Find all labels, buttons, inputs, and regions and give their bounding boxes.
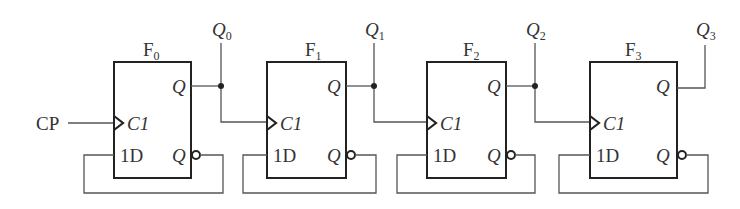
q2-wire [535, 43, 590, 122]
f1-q-label: Q [327, 76, 341, 97]
q0-junction-dot [218, 83, 224, 89]
q1-label: Q1 [365, 19, 385, 43]
flipflop-f1: F1 C1 1D Q Q [243, 39, 376, 193]
f3-qbar-label: Q [656, 145, 670, 166]
q1-wire [374, 43, 427, 122]
f3-q-label: Q [656, 76, 670, 97]
f0-c1-label: C1 [127, 113, 149, 134]
f1-title: F1 [305, 39, 322, 63]
f2-c1-label: C1 [440, 113, 462, 134]
f0-inversion-bubble-icon [192, 151, 200, 159]
f3-title: F3 [625, 39, 642, 63]
f1-inversion-bubble-icon [347, 151, 355, 159]
q2-label: Q2 [526, 19, 546, 43]
f2-qbar-label: Q [487, 145, 501, 166]
q2-junction-dot [532, 83, 538, 89]
q0-label: Q0 [212, 19, 232, 43]
f0-d-label: 1D [120, 145, 143, 166]
f0-qbar-label: Q [172, 145, 186, 166]
f0-title: F0 [143, 39, 160, 63]
f2-q-label: Q [487, 76, 501, 97]
flipflop-f2: F2 C1 1D Q Q [397, 39, 535, 193]
f2-title: F2 [463, 39, 480, 63]
q3-wire [677, 45, 705, 88]
f1-c1-label: C1 [280, 113, 302, 134]
counter-diagram: CP F0 C1 1D Q Q Q0 F1 C1 1D Q Q Q1 F2 C1… [0, 0, 740, 209]
f1-d-label: 1D [273, 145, 296, 166]
flipflop-f3: F3 C1 1D Q Q [559, 39, 708, 193]
flipflop-f0: F0 C1 1D Q Q [84, 39, 223, 193]
f1-qbar-label: Q [327, 145, 341, 166]
cp-label: CP [36, 113, 59, 134]
q3-label: Q3 [696, 19, 716, 43]
f2-d-label: 1D [433, 145, 456, 166]
q1-junction-dot [371, 83, 377, 89]
f3-inversion-bubble-icon [678, 151, 686, 159]
q0-wire [221, 43, 267, 122]
f3-c1-label: C1 [603, 113, 625, 134]
f3-d-label: 1D [596, 145, 619, 166]
f2-inversion-bubble-icon [507, 151, 515, 159]
f0-q-label: Q [172, 76, 186, 97]
